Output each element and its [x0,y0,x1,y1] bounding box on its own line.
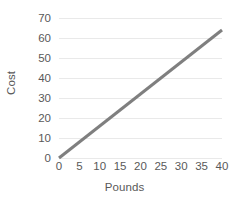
y-axis-tick-labels: 010203040506070 [22,0,55,165]
y-tick-label: 20 [38,112,51,124]
x-tick-label: 15 [114,160,127,172]
y-axis-title-text: Cost [5,70,17,94]
plot-area [59,18,222,158]
x-tick-label: 5 [76,160,82,172]
x-tick-label: 40 [216,160,229,172]
x-tick-label: 10 [93,160,106,172]
y-tick-label: 10 [38,132,51,144]
x-axis-tick-labels: 0510152025303540 [59,160,222,178]
x-tick-label: 35 [195,160,208,172]
y-tick-label: 60 [38,32,51,44]
y-tick-label: 40 [38,72,51,84]
y-tick-label: 30 [38,92,51,104]
x-tick-label: 25 [154,160,167,172]
line-chart-figure: Cost 010203040506070 0510152025303540 Po… [0,0,238,207]
series-line [59,30,222,158]
y-tick-label: 70 [38,12,51,24]
y-tick-label: 0 [45,152,51,164]
gridline [59,158,222,159]
data-series-line [59,18,222,158]
x-tick-label: 20 [134,160,147,172]
x-tick-label: 0 [56,160,62,172]
y-tick-label: 50 [38,52,51,64]
y-axis-title: Cost [0,0,22,165]
x-tick-label: 30 [175,160,188,172]
x-axis-title: Pounds [22,181,227,193]
